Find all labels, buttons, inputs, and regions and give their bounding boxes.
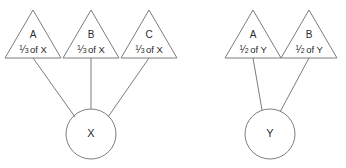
fraction-denominator: 3	[25, 47, 29, 54]
part-y-b-fraction: 1⁄2of Y	[295, 44, 323, 55]
part-x-b-label: B	[88, 29, 95, 40]
fraction-denominator: 3	[83, 47, 87, 54]
fraction-denominator: 3	[141, 47, 145, 54]
connector-x-a	[33, 58, 75, 117]
fraction-of-text: of X	[146, 44, 164, 55]
fraction-of-text: of X	[88, 44, 106, 55]
part-whole-diagram: A 1⁄3of X B 1⁄3of X C 1⁄3of X	[0, 0, 346, 168]
fraction-of-text: of X	[30, 44, 48, 55]
part-x-a-label: A	[30, 29, 37, 40]
connector-y-a	[253, 58, 262, 110]
group-y: A 1⁄2of Y B 1⁄2of Y Y	[225, 10, 337, 159]
fraction-denominator: 2	[301, 47, 305, 54]
whole-y-label: Y	[266, 127, 274, 139]
part-x-c-label: C	[145, 29, 152, 40]
group-x: A 1⁄3of X B 1⁄3of X C 1⁄3of X	[5, 10, 177, 159]
part-y-a-label: A	[250, 29, 257, 40]
whole-x[interactable]: X	[66, 109, 116, 159]
part-y-a-fraction: 1⁄2of Y	[239, 44, 267, 55]
fraction-of-text: of Y	[250, 44, 267, 55]
part-y-b[interactable]: B 1⁄2of Y	[281, 10, 337, 58]
fraction-denominator: 2	[245, 47, 249, 54]
part-x-a[interactable]: A 1⁄3of X	[5, 10, 61, 58]
part-x-c-fraction: 1⁄3of X	[135, 44, 164, 55]
fraction-of-text: of Y	[306, 44, 323, 55]
part-y-a[interactable]: A 1⁄2of Y	[225, 10, 281, 58]
part-x-b-fraction: 1⁄3of X	[77, 44, 106, 55]
diagram-canvas: A 1⁄3of X B 1⁄3of X C 1⁄3of X	[0, 0, 346, 168]
connector-x-c	[108, 58, 149, 117]
part-y-b-label: B	[306, 29, 313, 40]
part-x-c[interactable]: C 1⁄3of X	[121, 10, 177, 58]
whole-y[interactable]: Y	[245, 109, 295, 159]
part-x-b[interactable]: B 1⁄3of X	[63, 10, 119, 58]
whole-x-label: X	[87, 127, 95, 139]
connector-y-b	[280, 58, 309, 112]
part-x-a-fraction: 1⁄3of X	[19, 44, 48, 55]
